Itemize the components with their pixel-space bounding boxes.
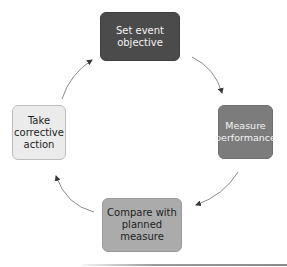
arrow-corrective-to-objective: [62, 60, 92, 99]
node-measure-performance: Measure performance: [218, 105, 273, 159]
bottom-divider: [82, 264, 287, 266]
node-take-corrective-action: Take corrective action: [12, 105, 66, 160]
node-label: Take corrective action: [14, 115, 64, 151]
arrow-compare-to-corrective: [56, 176, 94, 212]
node-label: Measure performance: [215, 120, 276, 144]
node-compare-with-planned-measure: Compare with planned measure: [102, 198, 182, 252]
arrow-measure-to-compare: [196, 172, 238, 205]
node-set-event-objective: Set event objective: [100, 12, 180, 61]
arrow-objective-to-measure: [192, 57, 222, 93]
control-cycle-diagram: Set event objective Measure performance …: [0, 0, 287, 267]
node-label: Set event objective: [116, 25, 164, 49]
node-label: Compare with planned measure: [107, 207, 177, 243]
